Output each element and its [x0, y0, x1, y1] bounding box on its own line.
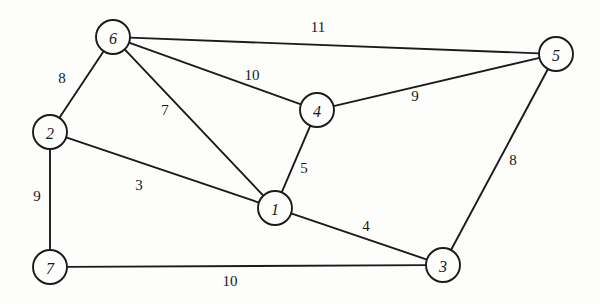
graph-edge-1-3: [291, 213, 427, 259]
graph-edge-2-1: [66, 137, 259, 202]
graph-node-7[interactable]: 7: [33, 250, 67, 284]
graph-node-1[interactable]: 1: [258, 191, 292, 225]
graph-node-6[interactable]: 6: [96, 20, 130, 54]
node-label-6: 6: [109, 30, 117, 47]
edge-weight-2-1: 3: [135, 177, 143, 193]
graph-edge-6-2: [59, 51, 103, 118]
node-label-2: 2: [46, 125, 54, 142]
graph-node-2[interactable]: 2: [33, 115, 67, 149]
graph-edge-6-4: [129, 43, 301, 105]
graph-edge-4-5: [334, 58, 540, 106]
edge-weight-6-2: 8: [58, 70, 66, 86]
graph-canvas: 11108795394108 6542173: [0, 0, 600, 304]
edge-weight-6-5: 11: [311, 19, 325, 35]
edge-weight-4-5: 9: [411, 88, 419, 104]
graph-node-5[interactable]: 5: [539, 37, 573, 71]
node-label-4: 4: [313, 103, 321, 120]
edges-layer: [50, 38, 548, 267]
nodes-layer: 6542173: [33, 20, 573, 284]
edge-weight-2-7: 9: [33, 188, 41, 204]
graph-edge-5-3: [451, 69, 548, 250]
weighted-graph-figure: 11108795394108 6542173: [0, 0, 600, 304]
node-label-7: 7: [46, 260, 55, 277]
graph-edge-6-1: [125, 49, 264, 195]
graph-edge-4-1: [282, 126, 311, 193]
node-label-1: 1: [271, 201, 279, 218]
edge-weight-6-4: 10: [245, 67, 260, 83]
edge-weight-1-3: 4: [362, 218, 370, 234]
graph-node-4[interactable]: 4: [300, 93, 334, 127]
node-label-3: 3: [438, 258, 447, 275]
edge-weight-4-1: 5: [300, 160, 308, 176]
edge-weight-5-3: 8: [509, 152, 517, 168]
edge-weight-6-1: 7: [161, 102, 169, 118]
graph-edge-7-3: [67, 265, 426, 267]
graph-node-3[interactable]: 3: [426, 248, 460, 282]
graph-edge-6-5: [130, 38, 539, 54]
node-label-5: 5: [552, 47, 560, 64]
edge-weight-7-3: 10: [223, 273, 238, 289]
